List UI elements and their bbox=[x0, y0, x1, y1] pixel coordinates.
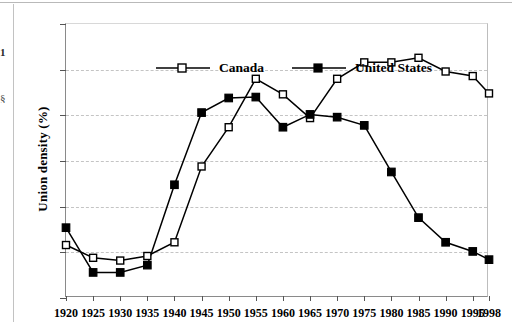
data-point-canada-1940 bbox=[171, 239, 178, 246]
data-point-united-states-1975 bbox=[361, 122, 369, 130]
data-point-canada-1995 bbox=[469, 73, 476, 80]
data-point-canada-1960 bbox=[279, 91, 286, 98]
data-point-canada-1990 bbox=[442, 68, 449, 75]
data-point-united-states-1920 bbox=[62, 224, 70, 232]
data-point-canada-1998 bbox=[486, 90, 493, 97]
legend-label-canada: Canada bbox=[219, 60, 264, 76]
data-point-united-states-1995 bbox=[469, 248, 477, 256]
data-point-canada-1935 bbox=[144, 252, 151, 259]
data-point-united-states-1940 bbox=[171, 181, 179, 189]
legend-item-united-states: United States bbox=[290, 60, 432, 76]
data-point-united-states-1955 bbox=[252, 93, 260, 101]
data-point-canada-1955 bbox=[252, 75, 259, 82]
y-axis-title: Union density (%) bbox=[35, 79, 53, 239]
data-point-united-states-1990 bbox=[442, 239, 450, 247]
data-point-canada-1970 bbox=[334, 75, 341, 82]
data-point-united-states-1950 bbox=[225, 94, 233, 102]
legend-marker-filled-square-icon bbox=[290, 61, 348, 75]
data-point-canada-1920 bbox=[63, 242, 70, 249]
data-point-united-states-1935 bbox=[144, 261, 152, 269]
series-line-united-states bbox=[66, 97, 489, 272]
legend-item-canada: Canada bbox=[154, 60, 264, 76]
figure-union-density: 1 § Union density (%) 10152025303540 192… bbox=[0, 0, 512, 333]
legend-label-united-states: United States bbox=[355, 60, 432, 76]
data-point-united-states-1930 bbox=[116, 269, 124, 277]
scan-artifact-left-rule bbox=[13, 4, 14, 322]
data-point-united-states-1965 bbox=[306, 111, 314, 119]
data-point-united-states-1970 bbox=[333, 113, 341, 121]
data-point-canada-1950 bbox=[225, 124, 232, 131]
x-tick-mark-1998 bbox=[489, 296, 490, 301]
page-text-fragment-lower: § bbox=[0, 93, 6, 103]
data-point-canada-1925 bbox=[90, 254, 97, 261]
data-point-canada-1930 bbox=[117, 257, 124, 264]
plot-area: 10152025303540 1920192519301935194019451… bbox=[65, 23, 488, 297]
legend-marker-open-square-icon bbox=[154, 61, 212, 75]
data-point-united-states-1985 bbox=[415, 214, 423, 222]
data-point-united-states-1980 bbox=[388, 168, 396, 176]
series-line-canada bbox=[66, 58, 489, 261]
x-tick-label-1998: 1998 bbox=[466, 306, 512, 321]
scan-artifact-top-rule bbox=[0, 2, 512, 3]
data-point-united-states-1945 bbox=[198, 109, 206, 117]
data-point-united-states-1960 bbox=[279, 123, 287, 130]
legend: Canada United States bbox=[154, 60, 432, 76]
page-text-fragment-upper: 1 bbox=[0, 47, 7, 57]
data-point-united-states-1998 bbox=[485, 256, 493, 264]
data-point-united-states-1925 bbox=[89, 269, 97, 277]
data-point-canada-1945 bbox=[198, 163, 205, 170]
